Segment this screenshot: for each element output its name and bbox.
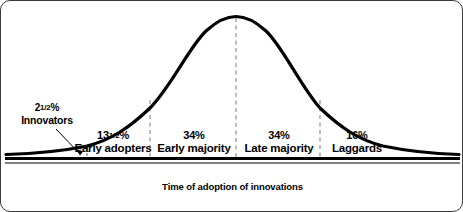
segment-percent-early-majority: 34%: [153, 129, 235, 142]
segment-percent-sign-innovators: %: [51, 102, 60, 113]
segment-name-innovators: Innovators: [9, 114, 85, 126]
segment-percent-fraction-early-adopters: 1/2: [109, 131, 120, 140]
segment-label-late-majority: 34% Late majority: [238, 129, 320, 156]
segment-label-early-majority: 34% Early majority: [153, 129, 235, 156]
chart-caption: Time of adoption of innovations: [1, 181, 463, 192]
segment-percent-early-adopters: 131/2%: [74, 129, 152, 142]
segment-label-laggards: 16% Laggards: [323, 129, 391, 156]
segment-percent-sign-early-adopters: %: [119, 129, 129, 141]
segment-percent-laggards: 16%: [323, 129, 391, 142]
segment-percent-fraction-innovators: 1/2: [40, 103, 51, 112]
segment-percent-late-majority: 34%: [238, 129, 320, 142]
segment-percent-innovators: 21/2%: [9, 102, 85, 114]
segment-name-early-majority: Early majority: [153, 142, 235, 156]
segment-label-early-adopters: 131/2% Early adopters: [74, 129, 152, 156]
segment-percent-whole-early-adopters: 13: [97, 129, 109, 141]
segment-name-late-majority: Late majority: [238, 142, 320, 156]
diffusion-of-innovations-diagram: 21/2% Innovators 131/2% Early adopters 3…: [0, 0, 463, 212]
segment-name-laggards: Laggards: [323, 142, 391, 156]
segment-name-early-adopters: Early adopters: [74, 142, 152, 156]
segment-label-innovators: 21/2% Innovators: [9, 102, 85, 126]
